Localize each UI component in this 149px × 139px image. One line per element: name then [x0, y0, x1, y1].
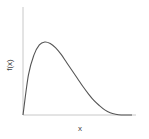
x-axis-label: x [78, 124, 82, 133]
density-curve [23, 42, 132, 115]
chart-svg: f(x) x [0, 0, 149, 139]
density-chart: f(x) x [0, 0, 149, 139]
y-axis-label: f(x) [5, 59, 14, 71]
